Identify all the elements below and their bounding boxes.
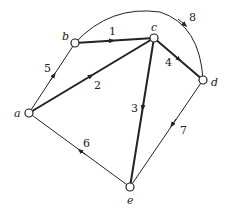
graph-diagram: 8 1 2 3 4 5 6 7: [0, 0, 228, 217]
edge-c-e: 3: [130, 38, 154, 187]
node-label-e: e: [127, 194, 134, 207]
node-label-d: d: [211, 76, 218, 89]
edge-weight-5: 5: [44, 62, 51, 75]
edge-weight-8: 8: [189, 11, 196, 24]
edge-e-a: 6: [29, 113, 130, 187]
node-label-a: a: [14, 107, 21, 120]
node-a: a: [14, 107, 33, 120]
edge-b-d: 8: [75, 11, 203, 80]
edge-weight-2: 2: [94, 79, 101, 92]
edge-weight-4: 4: [165, 56, 172, 69]
edge-weight-1: 1: [109, 25, 116, 38]
node-d: d: [199, 76, 218, 89]
edge-a-b: 5: [29, 43, 75, 113]
node-label-c: c: [151, 21, 157, 34]
edge-b-c: 1: [75, 25, 154, 43]
edge-weight-6: 6: [83, 137, 90, 150]
edge-weight-7: 7: [180, 124, 187, 137]
node-e: e: [126, 183, 134, 207]
edge-weight-3: 3: [131, 102, 138, 115]
edge-d-e: 7: [130, 80, 203, 187]
node-b: b: [62, 30, 79, 47]
node-label-b: b: [62, 30, 69, 43]
node-c: c: [150, 21, 158, 42]
